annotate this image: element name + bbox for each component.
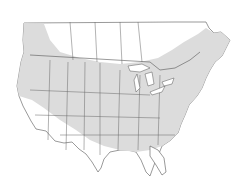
map-svg [0, 0, 239, 192]
range-map [0, 0, 239, 192]
